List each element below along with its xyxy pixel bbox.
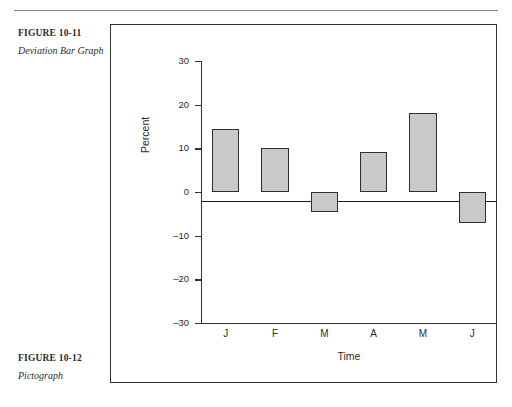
bar (409, 113, 437, 192)
x-axis-line (201, 323, 497, 324)
y-axis-tick-label: 0 (155, 186, 189, 197)
top-divider-rule (14, 10, 498, 11)
x-axis-tick-label: M (408, 328, 438, 339)
bar (360, 152, 388, 192)
x-axis-tick-label: A (359, 328, 389, 339)
y-axis-title: Percent (139, 117, 151, 153)
x-axis-tick-label: J (457, 328, 487, 339)
figure-page: FIGURE 10-11 Deviation Bar Graph FIGURE … (0, 0, 512, 407)
figure-caption-10-11: FIGURE 10-11 Deviation Bar Graph (18, 28, 108, 57)
bar (212, 129, 240, 192)
x-axis-tick-label: J (211, 328, 241, 339)
bar (311, 192, 339, 212)
x-axis-tick-label: M (309, 328, 339, 339)
y-axis-tick-label: 10 (155, 142, 189, 153)
y-axis-tick-label: 20 (155, 99, 189, 110)
figure-caption-10-12: FIGURE 10-12 Pictograph (18, 353, 108, 382)
figure-number-label: FIGURE 10-12 (18, 353, 108, 363)
figure-number-label: FIGURE 10-11 (18, 28, 108, 38)
figure-title-label: Deviation Bar Graph (18, 44, 108, 57)
y-axis-tick (195, 323, 202, 324)
figure-title-label: Pictograph (18, 369, 108, 382)
y-axis-tick-label: –10 (155, 230, 189, 241)
x-axis-tick-label: F (260, 328, 290, 339)
bar (459, 192, 487, 223)
y-axis-tick-label: –30 (155, 317, 189, 328)
y-axis-tick-label: 30 (155, 55, 189, 66)
bar-series (201, 61, 497, 323)
y-axis-tick-label: –20 (155, 273, 189, 284)
figure-frame: 3020100–10–20–30 JFMAMJ Time Percent (110, 24, 497, 383)
bar (261, 148, 289, 192)
deviation-bar-chart: 3020100–10–20–30 JFMAMJ Time Percent (111, 25, 496, 382)
x-axis-title: Time (201, 350, 497, 362)
